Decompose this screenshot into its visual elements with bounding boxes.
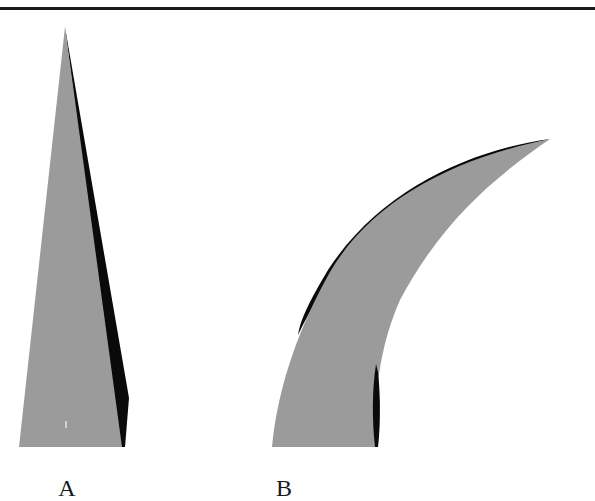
panel-a-label: A <box>58 476 75 500</box>
panel-b-surface <box>272 139 550 447</box>
panel-a-highlight-mark <box>65 421 67 428</box>
panel-a-surface <box>19 27 122 447</box>
panel-a-shape <box>19 27 129 447</box>
panel-b-label: B <box>276 476 292 500</box>
panel-b-shape <box>272 139 550 447</box>
figure-canvas <box>0 0 595 501</box>
